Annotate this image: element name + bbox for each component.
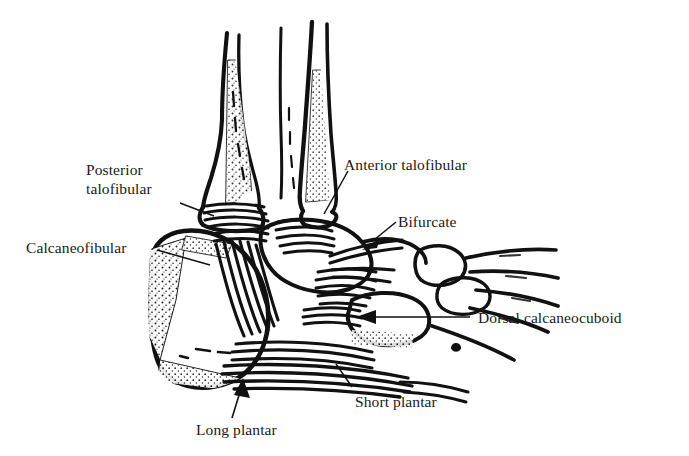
label-posterior-talofibular: Posterior talofibular xyxy=(86,160,152,198)
label-bifurcate: Bifurcate xyxy=(398,212,457,231)
label-calcaneofibular: Calcaneofibular xyxy=(26,238,126,257)
label-anterior-talofibular-line1: Anterior talofibular xyxy=(344,155,467,174)
label-anterior-talofibular: Anterior talofibular xyxy=(344,155,467,174)
label-bifurcate-line1: Bifurcate xyxy=(398,212,457,231)
dorsal-calcaneocuboid-ligament xyxy=(303,308,362,326)
label-long-plantar: Long plantar xyxy=(196,420,277,439)
label-long-plantar-line1: Long plantar xyxy=(196,420,277,439)
label-posterior-talofibular-line1: Posterior xyxy=(86,160,152,179)
calcaneus-shading xyxy=(146,236,240,392)
anatomy-drawing xyxy=(0,0,689,456)
midfoot-bones xyxy=(348,246,490,345)
label-posterior-talofibular-line2: talofibular xyxy=(86,179,152,198)
label-dorsal-calcaneocuboid-line1: Dorsal calcaneocuboid xyxy=(478,308,622,327)
metatarsal-bones xyxy=(432,249,558,360)
calcaneus-inner-marks xyxy=(180,349,230,358)
sesamoid-fleck xyxy=(452,344,460,351)
label-short-plantar: Short plantar xyxy=(355,392,437,411)
label-short-plantar-line1: Short plantar xyxy=(355,392,437,411)
bone-outlines xyxy=(146,22,558,402)
plantar-stipple xyxy=(350,330,414,348)
leader-bifurcate xyxy=(374,222,396,240)
tibia-inner-dashes xyxy=(289,108,294,188)
label-dorsal-calcaneocuboid: Dorsal calcaneocuboid xyxy=(478,308,622,327)
label-calcaneofibular-line1: Calcaneofibular xyxy=(26,238,126,257)
ankle-ligament-figure: Posterior talofibular Calcaneofibular An… xyxy=(0,0,689,456)
